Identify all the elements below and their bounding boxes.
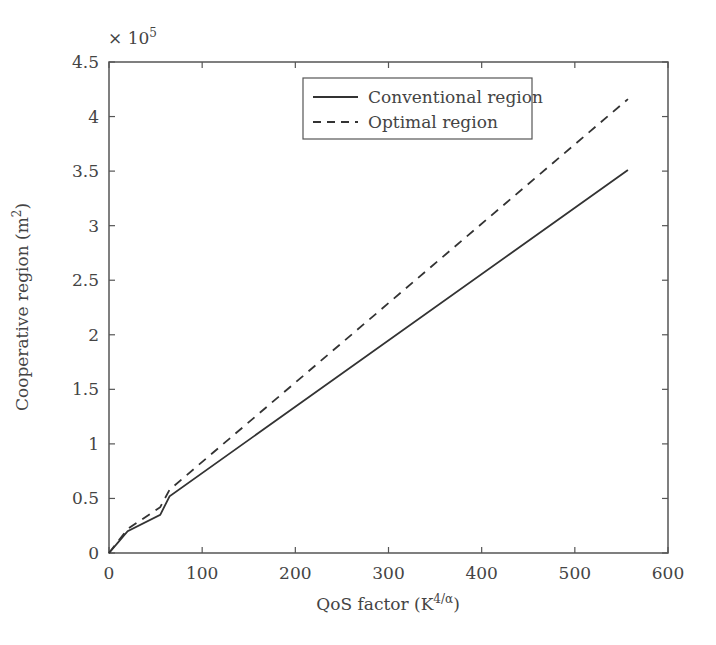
y-multiplier: × 105 — [108, 26, 157, 48]
x-tick-label: 200 — [279, 563, 311, 583]
y-tick-label: 4 — [88, 107, 99, 127]
chart: 0100200300400500600 00.511.522.533.544.5… — [0, 0, 716, 645]
x-tick-label: 300 — [372, 563, 404, 583]
y-tick-label: 2.5 — [72, 270, 99, 290]
y-tick-label: 0.5 — [72, 488, 99, 508]
legend: Conventional region Optimal region — [303, 78, 543, 139]
y-tick-label: 2 — [88, 325, 99, 345]
y-tick-label: 4.5 — [72, 52, 99, 72]
x-tick-label: 0 — [104, 563, 115, 583]
y-tick-label: 3.5 — [72, 161, 99, 181]
legend-conventional: Conventional region — [368, 87, 543, 107]
series-solid — [109, 170, 628, 553]
x-axis-label: QoS factor (K4/α) — [316, 592, 460, 614]
y-tick-label: 0 — [88, 543, 99, 563]
y-tick-label: 1 — [88, 434, 99, 454]
x-axis-ticks: 0100200300400500600 — [104, 62, 685, 583]
y-tick-label: 3 — [88, 216, 99, 236]
legend-optimal: Optimal region — [368, 112, 498, 132]
x-tick-label: 500 — [559, 563, 591, 583]
y-tick-label: 1.5 — [72, 379, 99, 399]
x-tick-label: 600 — [652, 563, 684, 583]
series-lines — [109, 99, 628, 553]
x-tick-label: 100 — [186, 563, 218, 583]
y-axis-label: Cooperative region (m2) — [10, 203, 32, 411]
x-tick-label: 400 — [465, 563, 497, 583]
